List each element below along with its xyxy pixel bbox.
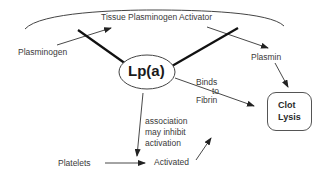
node-platelets: Platelets [58,158,91,168]
arrow-plasmin-to-clot [275,63,288,87]
arrow-tpa-to-plasmin [207,27,268,48]
clot-lysis-line2: Lysis [278,111,301,123]
node-activated: Activated [154,157,189,167]
node-lpa: Lp(a) [128,62,165,79]
node-tpa: Tissue Plasminogen Activator [101,12,212,22]
node-plasmin: Plasmin [251,52,281,62]
label-association: association [145,116,188,126]
thick-link-left [78,30,126,64]
label-activation: activation [145,138,181,148]
thick-link-right [172,28,238,66]
arrow-activated-to-clot [196,138,211,160]
label-may-inhibit: may inhibit [145,127,186,137]
diagram-canvas [0,0,327,175]
clot-lysis-line1: Clot [278,99,296,111]
arrow-lpa-to-platelets [137,93,143,156]
label-fibrin: Fibrin [196,95,217,105]
node-plasminogen: Plasminogen [18,47,67,57]
arrow-plasminogen-to-tpa [57,28,111,45]
